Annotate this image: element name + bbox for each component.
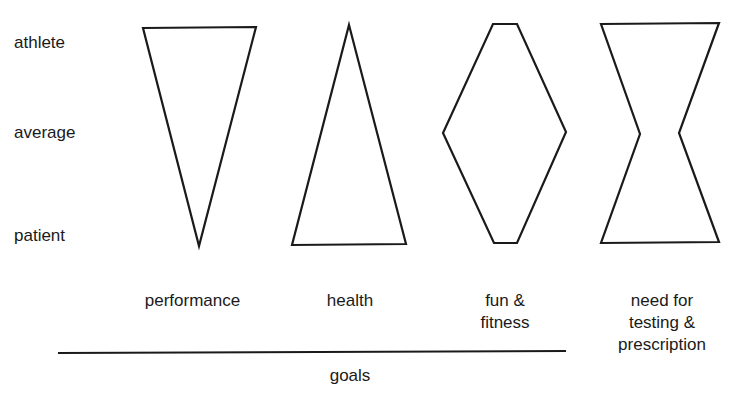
goal-label-fun-fitness-line1: fun & bbox=[455, 290, 555, 312]
goal-label-testing-line1: need for bbox=[600, 290, 724, 312]
goals-axis-label: goals bbox=[300, 366, 400, 386]
goal-label-fun-fitness: fun & fitness bbox=[455, 290, 555, 334]
performance-shape bbox=[143, 27, 256, 246]
goals-axis-line bbox=[58, 351, 566, 353]
goal-label-performance: performance bbox=[120, 290, 265, 312]
goal-label-fun-fitness-line2: fitness bbox=[455, 312, 555, 334]
goal-label-health-text: health bbox=[327, 291, 373, 310]
goal-label-testing-prescription: need for testing & prescription bbox=[600, 290, 724, 356]
goal-label-testing-line3: prescription bbox=[600, 334, 724, 356]
goal-label-health: health bbox=[305, 290, 395, 312]
goal-label-performance-text: performance bbox=[145, 291, 240, 310]
testing-prescription-shape bbox=[601, 23, 719, 243]
fun-fitness-shape bbox=[443, 24, 566, 243]
health-shape bbox=[292, 25, 406, 245]
goal-label-testing-line2: testing & bbox=[600, 312, 724, 334]
